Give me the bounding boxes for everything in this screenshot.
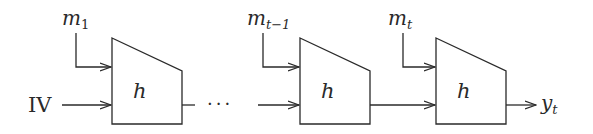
input-arrow-m-t-minus-1 — [263, 33, 299, 67]
diagram-canvas: IV m1 mt−1 mt h h h ··· yt — [0, 0, 593, 134]
input-arrow-m-t — [403, 33, 435, 67]
y-t-label: yt — [540, 91, 558, 117]
block-h-2 — [300, 38, 370, 124]
ellipsis: ··· — [207, 93, 233, 114]
iv-label: IV — [28, 93, 52, 117]
block2-h-label: h — [321, 79, 335, 103]
m-t-minus-1-label: mt−1 — [247, 6, 290, 32]
block3-h-label: h — [457, 79, 471, 103]
input-arrow-m1 — [76, 33, 111, 67]
block-h-3 — [436, 38, 506, 124]
m1-label: m1 — [62, 6, 89, 32]
block-h-1 — [112, 38, 182, 124]
block1-h-label: h — [133, 79, 147, 103]
m-t-label: mt — [388, 6, 413, 32]
